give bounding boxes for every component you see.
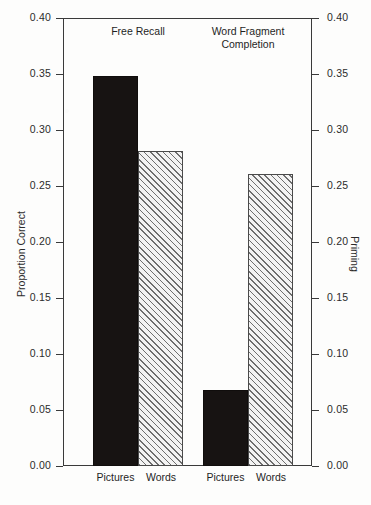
x-label-wfc-words: Words <box>246 471 296 483</box>
x-label-wfc-pictures: Pictures <box>198 471 253 483</box>
y-ticklabel-right-0: 0.00 <box>327 459 348 471</box>
x-label-free-recall-pictures: Pictures <box>88 471 143 483</box>
y-tick-left-0.30 <box>56 130 63 131</box>
y-tick-left-0.40 <box>56 18 63 19</box>
y-ticklabel-left-0: 0.00 <box>30 459 51 471</box>
y-ticklabel-right-6: 0.30 <box>327 123 348 135</box>
y-ticklabel-right-5: 0.25 <box>327 179 348 191</box>
y-tick-right-0.35 <box>312 74 319 75</box>
y-tick-right-0.40 <box>312 18 319 19</box>
y-axis-title-right: Priming <box>349 199 361 309</box>
y-tick-right-0.20 <box>312 242 319 243</box>
y-ticklabel-left-1: 0.05 <box>30 403 51 415</box>
y-tick-left-0.35 <box>56 74 63 75</box>
y-ticklabel-right-3: 0.15 <box>327 291 348 303</box>
group-header-word-fragment-completion: Word Fragment Completion <box>198 25 298 51</box>
x-label-free-recall-words: Words <box>136 471 186 483</box>
y-tick-right-0.25 <box>312 186 319 187</box>
bar-chart-figure: 0.40 0.35 0.30 0.25 0.20 0.15 0.10 0.05 … <box>0 0 371 505</box>
y-tick-left-0.25 <box>56 186 63 187</box>
y-ticklabel-left-6: 0.30 <box>30 123 51 135</box>
bar-free-recall-pictures <box>93 76 138 466</box>
y-tick-left-0.15 <box>56 298 63 299</box>
y-tick-right-0.10 <box>312 354 319 355</box>
y-ticklabel-right-4: 0.20 <box>327 235 348 247</box>
y-tick-left-0.05 <box>56 410 63 411</box>
y-ticklabel-right-1: 0.05 <box>327 403 348 415</box>
y-ticklabel-right-2: 0.10 <box>327 347 348 359</box>
y-ticklabel-left-7: 0.35 <box>30 67 51 79</box>
y-tick-left-0.20 <box>56 242 63 243</box>
y-axis-title-left: Proportion Correct <box>15 199 27 309</box>
y-ticklabel-right-7: 0.35 <box>327 67 348 79</box>
y-tick-right-0.00 <box>312 466 319 467</box>
y-tick-right-0.05 <box>312 410 319 411</box>
y-tick-right-0.30 <box>312 130 319 131</box>
y-ticklabel-right-8: 0.40 <box>327 11 348 23</box>
group-header-free-recall: Free Recall <box>92 25 184 38</box>
y-tick-right-0.15 <box>312 298 319 299</box>
y-ticklabel-left-5: 0.25 <box>30 179 51 191</box>
y-tick-left-0.00 <box>56 466 63 467</box>
bar-free-recall-words <box>138 151 183 466</box>
y-tick-left-0.10 <box>56 354 63 355</box>
y-ticklabel-left-4: 0.20 <box>30 235 51 247</box>
bar-wfc-pictures <box>203 390 248 466</box>
y-ticklabel-left-8: 0.40 <box>30 11 51 23</box>
y-ticklabel-left-2: 0.10 <box>30 347 51 359</box>
bar-wfc-words <box>248 174 293 466</box>
y-ticklabel-left-3: 0.15 <box>30 291 51 303</box>
